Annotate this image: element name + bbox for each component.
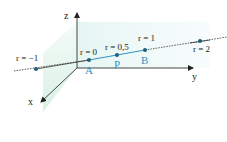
point-label-a: A bbox=[85, 64, 93, 76]
point-r-minus-1 bbox=[34, 67, 38, 71]
point-r-2 bbox=[198, 39, 202, 43]
z-axis-label: z bbox=[64, 10, 69, 21]
param-label-a: r = 0 bbox=[80, 47, 98, 57]
point-label-b: B bbox=[141, 54, 148, 66]
param-label-r-2: r = 2 bbox=[193, 44, 210, 54]
point-b bbox=[143, 48, 147, 52]
param-label-p: r = 0,5 bbox=[105, 42, 129, 52]
y-axis-label: y bbox=[192, 71, 197, 82]
param-label-r-minus-1: r = −1 bbox=[16, 53, 38, 63]
point-label-p: P bbox=[114, 58, 120, 70]
x-axis-label: x bbox=[28, 96, 33, 107]
param-label-b: r = 1 bbox=[138, 33, 155, 43]
line-diagram: z y x r = −1 r = 0 r = 0,5 r = 1 r = 2 A… bbox=[0, 0, 227, 142]
point-p bbox=[115, 53, 119, 57]
point-a bbox=[87, 58, 91, 62]
